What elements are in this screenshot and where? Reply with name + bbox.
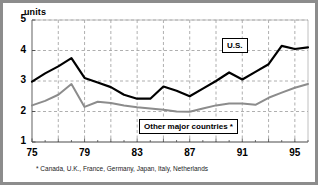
y-tick-label-4: 4 [10,44,26,55]
x-tick-label-75: 75 [19,147,45,158]
x-tick-label-91: 91 [229,147,255,158]
y-tick-label-2: 2 [10,105,26,116]
chart-svg-canvas [0,0,318,185]
chart-plot-area: units 12345 757983879195 U.S. Other majo… [0,0,318,185]
series-label-other-countries: Other major countries * [139,119,238,134]
y-tick-label-5: 5 [10,13,26,24]
chart-footnote: * Canada, U.K., France, Germany, Japan, … [36,165,208,172]
x-tick-label-79: 79 [72,147,98,158]
data-series-lines [32,46,308,112]
x-tick-label-95: 95 [282,147,308,158]
series-line-us [32,46,308,99]
chart-screenshot: units 12345 757983879195 U.S. Other majo… [0,0,318,185]
y-tick-label-3: 3 [10,74,26,85]
x-tick-label-83: 83 [124,147,150,158]
series-label-us: U.S. [222,38,248,53]
x-tick-label-87: 87 [177,147,203,158]
y-tick-label-1: 1 [10,135,26,146]
